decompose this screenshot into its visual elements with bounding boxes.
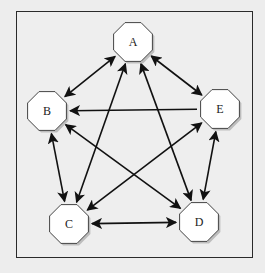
node-label: B [43, 104, 51, 118]
node-label: E [216, 102, 223, 116]
node-label: D [195, 215, 204, 229]
node-d: D [180, 203, 221, 244]
node-b: B [28, 92, 69, 133]
edge-e-b [70, 109, 197, 110]
nodes-layer: ABECD [28, 23, 242, 246]
edge-a-b [65, 56, 115, 96]
edge-a-c [77, 64, 126, 203]
edge-b-d [66, 125, 181, 209]
edge-a-d [141, 64, 191, 201]
node-e: E [201, 90, 242, 131]
edge-a-e [151, 56, 202, 95]
graph-diagram: ABECD [0, 0, 265, 273]
node-label: A [129, 35, 138, 49]
edge-b-c [51, 134, 64, 202]
node-a: A [114, 23, 155, 64]
node-c: C [50, 205, 91, 246]
edge-c-d [92, 222, 176, 223]
node-label: C [65, 217, 73, 231]
edges-layer [51, 56, 215, 224]
edge-e-c [87, 123, 201, 210]
edge-e-d [203, 132, 216, 200]
